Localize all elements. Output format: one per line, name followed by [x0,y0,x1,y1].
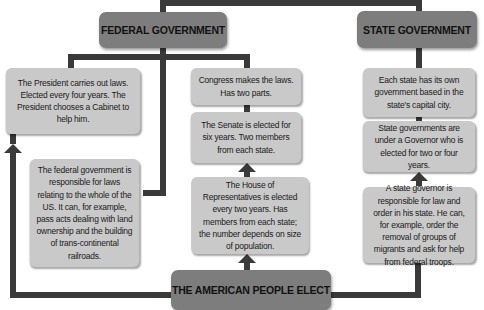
governor-role-text: A state governor is responsible for law … [368,182,469,267]
congress-text: Congress makes the laws. Has two parts. [196,74,295,98]
connector-president-bottom [10,134,16,144]
american-people-header: THE AMERICAN PEOPLE ELECT [171,270,331,310]
connector-federal-branch [68,54,250,60]
congress-box: Congress makes the laws. Has two parts. [191,68,301,105]
arrow-people-to-president [4,144,22,153]
connector-president-down [68,54,74,68]
federal-role-box: The federal government is responsible fo… [30,159,139,267]
president-text: The President carries out laws. Elected … [11,77,134,126]
connector-left-vertical [10,152,16,298]
house-text: The House of Representatives is elected … [197,179,304,252]
senate-box: The Senate is elected for six years. Two… [191,112,301,163]
connector-top-horizontal [160,0,422,6]
connector-people-left [10,292,175,298]
connector-people-right [328,292,421,298]
american-people-label: THE AMERICAN PEOPLE ELECT [172,284,330,296]
governor-text: State governments are under a Governor w… [368,122,469,171]
senate-text: The Senate is elected for six years. Two… [196,119,295,156]
connector-federal-down [160,46,166,196]
federal-role-text: The federal government is responsible fo… [35,164,133,262]
state-government-text: Each state has its own government based … [368,74,469,111]
state-government-header: STATE GOVERNMENT [357,11,477,48]
state-government-box: Each state has its own government based … [363,68,475,117]
governor-box: State governments are under a Governor w… [363,121,475,172]
connector-congress-down [244,54,250,68]
federal-government-label: FEDERAL GOVERNMENT [101,24,225,36]
connector-state-down [416,46,422,68]
president-box: The President carries out laws. Elected … [6,68,140,134]
house-box: The House of Representatives is elected … [191,177,309,254]
state-government-label: STATE GOVERNMENT [363,24,471,36]
governor-role-box: A state governor is responsible for law … [363,187,475,263]
connector-federal-role [143,190,166,196]
federal-government-header: FEDERAL GOVERNMENT [99,12,227,48]
